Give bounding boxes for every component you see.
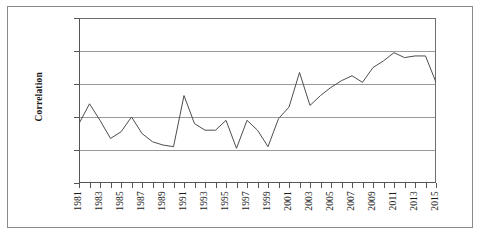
x-axis-tick-label: 1991 [179,191,189,211]
x-axis-tick-mark [373,183,374,188]
x-axis-tick-mark [342,183,343,188]
x-axis-tick-mark [111,183,112,188]
correlation-line-chart: Correlation 1.00.80.60.40.20.0 198119831… [0,0,485,244]
x-axis-tick-mark [394,183,395,188]
x-axis-tick-mark [289,183,290,188]
x-axis-tick-mark [436,183,437,188]
x-axis-tick-mark [195,183,196,188]
x-axis-tick-mark [79,183,80,188]
x-axis-tick-label: 1985 [116,191,126,211]
x-axis-tick-mark [268,183,269,188]
x-axis-tick-mark [153,183,154,188]
x-axis-tick-mark [331,183,332,188]
y-axis-title: Correlation [34,72,48,122]
x-axis-tick-label: 1997 [242,191,252,211]
x-axis-tick-mark [216,183,217,188]
x-axis-tick-mark [258,183,259,188]
x-axis-tick-mark [352,183,353,188]
x-axis-tick-label: 1989 [158,191,168,211]
x-axis-tick-label: 1981 [74,191,84,211]
x-axis-tick-mark [184,183,185,188]
x-axis-tick-mark [226,183,227,188]
x-axis-tick-mark [426,183,427,188]
x-axis-tick-label: 2005 [326,191,336,211]
x-axis-tick-mark [321,183,322,188]
x-axis-tick-mark [121,183,122,188]
x-axis-tick-mark [247,183,248,188]
x-axis-tick-label: 1999 [263,191,273,211]
x-axis-tick-mark [363,183,364,188]
x-axis-tick-mark [163,183,164,188]
x-axis-tick-mark [174,183,175,188]
x-axis-tick-mark [142,183,143,188]
x-axis-tick-label: 1995 [221,191,231,211]
x-axis-tick-label: 2011 [389,191,399,210]
x-axis-tick-mark [415,183,416,188]
x-axis-tick-mark [205,183,206,188]
x-axis-tick-mark [300,183,301,188]
x-axis-tick-mark [279,183,280,188]
x-axis-tick-label: 2001 [284,191,294,211]
x-axis-tick-label: 1993 [200,191,210,211]
plot-area [79,18,436,183]
x-axis-tick-label: 2003 [305,191,315,211]
x-axis-tick-label: 2007 [347,191,357,211]
x-axis-tick-mark [132,183,133,188]
x-axis-tick-label: 1983 [95,191,105,211]
x-axis-tick-label: 2009 [368,191,378,211]
x-axis-tick-label: 1987 [137,191,147,211]
x-axis-tick-mark [405,183,406,188]
x-axis-tick-label: 2013 [410,191,420,211]
x-axis-tick-mark [310,183,311,188]
x-axis-tick-label: 2015 [431,191,441,211]
x-axis-tick-mark [237,183,238,188]
x-axis-tick-mark [384,183,385,188]
figure-container: Correlation 1.00.80.60.40.20.0 198119831… [0,0,485,244]
x-axis-tick-mark [100,183,101,188]
x-axis-tick-mark [90,183,91,188]
data-series-correlation [79,18,436,183]
series-polyline [79,53,436,149]
